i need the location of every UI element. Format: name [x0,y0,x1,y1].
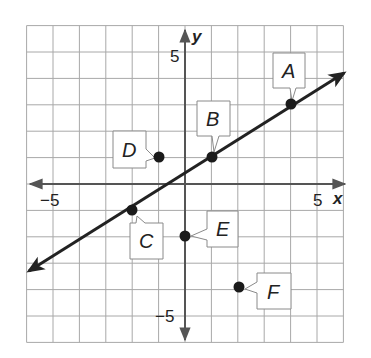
point-e [180,231,191,242]
y-axis-label: y [191,27,203,46]
x-tick-neg5: −5 [40,191,59,210]
point-label-e: E [216,218,230,240]
y-tick-pos5: 5 [170,47,179,66]
y-tick-neg5: −5 [155,307,174,326]
label-box-e: E [191,211,238,247]
point-b [207,152,218,163]
label-box-a: A [273,53,305,101]
coordinate-plane: −5 5 x 5 −5 y A B D C E F [0,0,371,358]
point-f [234,282,245,293]
label-box-b: B [197,101,230,152]
point-label-b: B [206,108,219,130]
point-label-f: F [267,281,281,303]
x-tick-pos5: 5 [313,191,322,210]
point-c [127,205,138,216]
point-label-d: D [122,139,136,161]
label-box-f: F [245,273,291,309]
label-box-d: D [113,131,155,168]
point-label-c: C [139,230,154,252]
label-box-c: C [130,216,163,259]
linear-function-line [29,73,344,271]
point-d [154,152,165,163]
point-a [286,99,297,110]
x-axis-label: x [332,189,344,208]
point-label-a: A [281,60,295,82]
